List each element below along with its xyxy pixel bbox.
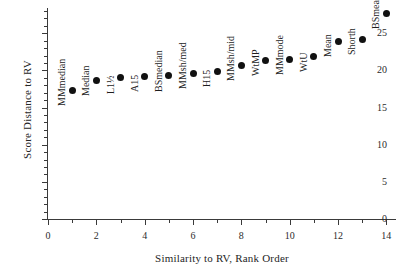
x-axis-title: Similarity to RV, Rank Order (48, 252, 396, 264)
scatter-chart-figure: Score Distance to RV Similarity to RV, R… (0, 0, 404, 277)
y-tick-minor (44, 189, 48, 190)
y-tick-minor (44, 137, 48, 138)
x-tick-label: 6 (181, 231, 205, 241)
x-tick-label: 2 (84, 231, 108, 241)
y-axis-title: Score Distance to RV (18, 0, 36, 219)
y-tick-minor (44, 174, 48, 175)
data-point-label: BSmean (371, 0, 381, 29)
y-tick-minor (44, 100, 48, 101)
data-point (69, 87, 76, 94)
y-tick-minor (44, 115, 48, 116)
y-tick-minor (44, 11, 48, 12)
x-tick-minor (217, 220, 218, 223)
x-tick-label: 14 (374, 231, 398, 241)
y-tick-minor (44, 85, 48, 86)
y-tick-minor (44, 212, 48, 213)
data-point-label: L1½ (106, 75, 116, 94)
data-point (190, 70, 197, 77)
x-tick-label: 4 (133, 231, 157, 241)
data-point-label: WtU (299, 53, 309, 72)
x-tick-label: 10 (278, 231, 302, 241)
x-tick-label: 0 (36, 231, 60, 241)
y-tick-minor (44, 130, 48, 131)
data-point-label: Shorth (347, 29, 357, 56)
data-point-label: MMmode (275, 35, 285, 75)
plot-area: 0510152025 02468101214 MMmedianMedianL1½… (48, 8, 396, 219)
x-tick-label: 8 (229, 231, 253, 241)
data-point (141, 73, 148, 80)
y-tick-minor (44, 160, 48, 161)
y-tick-minor (44, 78, 48, 79)
y-tick-major (42, 145, 48, 146)
x-axis-line (47, 219, 396, 220)
data-point-label: MMmedian (57, 59, 67, 106)
y-tick-minor (44, 56, 48, 57)
y-tick-minor (44, 122, 48, 123)
data-point-label: Mean (323, 35, 333, 58)
data-point-label: WtMP (251, 49, 261, 76)
y-tick-minor (44, 48, 48, 49)
y-tick-label: 15 (365, 103, 387, 113)
x-tick-minor (314, 220, 315, 223)
data-point (383, 10, 390, 17)
data-point (238, 62, 245, 69)
x-tick-minor (266, 220, 267, 223)
x-tick-major (386, 220, 387, 225)
y-tick-minor (44, 204, 48, 205)
y-tick-minor (44, 197, 48, 198)
x-tick-major (96, 220, 97, 225)
y-tick-minor (44, 26, 48, 27)
data-point (165, 72, 172, 79)
x-tick-minor (362, 220, 363, 223)
data-point (359, 36, 366, 43)
x-tick-major (193, 220, 194, 225)
y-tick-major (42, 108, 48, 109)
y-tick-minor (44, 41, 48, 42)
y-axis-line (47, 8, 48, 219)
x-tick-minor (72, 220, 73, 223)
data-point (310, 53, 317, 60)
y-tick-minor (44, 167, 48, 168)
y-tick-label: 10 (365, 140, 387, 150)
data-point-label: BSmedian (154, 50, 164, 92)
y-tick-minor (44, 93, 48, 94)
data-point (93, 77, 100, 84)
y-tick-major (42, 33, 48, 34)
y-tick-label: 5 (365, 177, 387, 187)
data-point-label: Median (81, 66, 91, 97)
x-tick-label: 12 (326, 231, 350, 241)
y-tick-label: 0 (365, 214, 387, 224)
data-point (262, 57, 269, 64)
x-tick-major (290, 220, 291, 225)
x-tick-major (145, 220, 146, 225)
y-tick-minor (44, 18, 48, 19)
x-tick-major (338, 220, 339, 225)
data-point-label: MMsh/med (178, 43, 188, 90)
x-tick-minor (121, 220, 122, 223)
data-point (335, 38, 342, 45)
y-tick-major (42, 182, 48, 183)
y-tick-major (42, 70, 48, 71)
data-point-label: MMsh/mid (226, 36, 236, 81)
data-point (117, 74, 124, 81)
data-point (286, 56, 293, 63)
y-tick-label: 20 (365, 65, 387, 75)
y-tick-minor (44, 152, 48, 153)
x-tick-major (241, 220, 242, 225)
x-tick-minor (169, 220, 170, 223)
data-point-label: H15 (202, 70, 212, 87)
data-point (214, 68, 221, 75)
y-tick-label: 25 (365, 28, 387, 38)
data-point-label: A15 (130, 75, 140, 92)
x-tick-major (48, 220, 49, 225)
y-tick-minor (44, 63, 48, 64)
